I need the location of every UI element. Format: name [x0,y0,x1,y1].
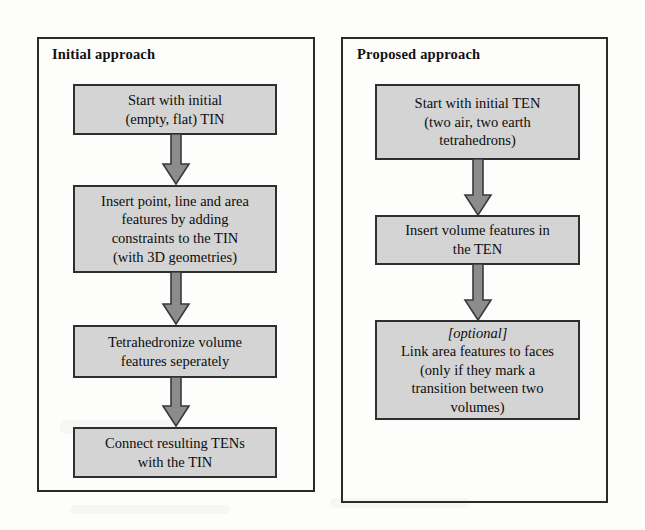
node-proposed-3-optional-label: [optional] [448,324,508,343]
node-initial-3: Tetrahedronize volume features seperatel… [73,325,277,378]
node-initial-1-text: Start with initial (empty, flat) TIN [125,91,224,128]
node-initial-2-text: Insert point, line and area features by … [101,192,249,266]
arrow-initial-3 [160,377,192,428]
node-proposed-2: Insert volume features in the TEN [375,215,580,265]
arrow-proposed-1 [462,159,494,217]
node-proposed-2-text: Insert volume features in the TEN [405,221,550,258]
node-initial-1: Start with initial (empty, flat) TIN [73,84,277,135]
node-initial-4-text: Connect resulting TENs with the TIN [105,434,245,471]
arrow-initial-2 [160,272,192,326]
node-proposed-3-text: Link area features to faces (only if the… [401,342,554,416]
arrow-initial-1 [160,134,192,186]
diagram-canvas: Initial approach Start with initial (emp… [0,0,645,530]
node-proposed-1: Start with initial TEN (two air, two ear… [375,84,580,160]
arrow-proposed-2 [462,264,494,322]
panel-initial-approach-title: Initial approach [52,46,155,63]
node-proposed-3: [optional] Link area features to faces (… [375,320,580,420]
scan-artifact [70,505,230,514]
node-proposed-1-text: Start with initial TEN (two air, two ear… [415,94,541,150]
node-initial-3-text: Tetrahedronize volume features seperatel… [108,333,242,370]
panel-proposed-approach-title: Proposed approach [357,46,480,63]
node-initial-4: Connect resulting TENs with the TIN [73,427,277,478]
node-initial-2: Insert point, line and area features by … [73,185,277,273]
